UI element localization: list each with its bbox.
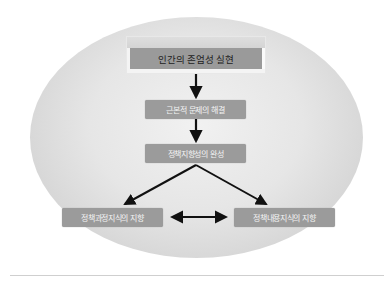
arrow-level3-to-right <box>196 165 266 204</box>
arrow-level3-to-left <box>125 165 196 204</box>
connector-arrows <box>0 0 391 282</box>
bottom-divider <box>10 275 384 276</box>
